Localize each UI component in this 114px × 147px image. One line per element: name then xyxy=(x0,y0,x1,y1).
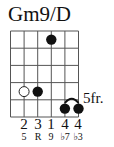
string-lines xyxy=(11,31,79,117)
finger-number: 4 xyxy=(58,117,72,131)
finger-dot-string4-fret1 xyxy=(46,34,56,44)
finger-number: 1 xyxy=(44,117,58,131)
interval-label: ♭3 xyxy=(70,132,86,142)
fret-lines xyxy=(11,31,79,117)
finger-dot-string3-fret4 xyxy=(33,86,43,96)
finger-number: 4 xyxy=(71,117,85,131)
finger-number: 3 xyxy=(31,117,45,131)
open-circle-string2-fret4 xyxy=(19,87,29,97)
fret-position-label: 5fr. xyxy=(83,91,103,106)
finger-number: 2 xyxy=(17,117,31,131)
finger-dot-string5-fret5 xyxy=(60,103,70,113)
